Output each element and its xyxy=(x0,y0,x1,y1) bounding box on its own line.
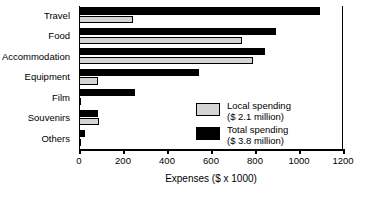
bar-total-spending xyxy=(79,28,276,35)
bar-group xyxy=(79,6,343,26)
bar-local-spending xyxy=(79,139,81,146)
x-axis-tick-label: 600 xyxy=(203,155,219,166)
bar-local-spending xyxy=(79,98,81,105)
category-label: Equipment xyxy=(0,67,74,87)
bar-local-spending xyxy=(79,16,133,23)
category-label: Film xyxy=(0,88,74,108)
legend-item-total: Total spending ($ 3.8 million) xyxy=(196,125,324,146)
black-swatch-icon xyxy=(196,127,220,140)
category-label: Souvenirs xyxy=(0,108,74,128)
x-axis-tick-label: 400 xyxy=(159,155,175,166)
bar-total-spending xyxy=(79,130,85,137)
category-axis-labels: TravelFoodAccommodationEquipmentFilmSouv… xyxy=(0,6,74,149)
bar-local-spending xyxy=(79,57,253,64)
x-axis-tick xyxy=(211,149,213,154)
grey-swatch-icon xyxy=(196,103,220,116)
legend-total-line1: Total spending xyxy=(227,124,288,135)
bar-total-spending xyxy=(79,69,199,76)
legend-item-total-label: Total spending ($ 3.8 million) xyxy=(227,125,288,146)
x-axis-tick xyxy=(255,149,257,154)
bar-local-spending xyxy=(79,77,98,84)
x-axis-tick-labels: 020040060080010001200 xyxy=(79,155,343,169)
x-axis-tick-label: 1200 xyxy=(332,155,353,166)
legend-item-local: Local spending ($ 2.1 million) xyxy=(196,101,324,122)
x-axis-title: Expenses ($ x 1000) xyxy=(79,173,343,184)
chart-legend: Local spending ($ 2.1 million) Total spe… xyxy=(196,101,324,149)
category-label: Food xyxy=(0,26,74,46)
x-axis-tick xyxy=(299,149,301,154)
bar-group xyxy=(79,47,343,67)
bar-total-spending xyxy=(79,48,265,55)
legend-item-local-label: Local spending ($ 2.1 million) xyxy=(227,101,291,122)
x-axis-tick xyxy=(167,149,169,154)
legend-local-line1: Local spending xyxy=(227,100,291,111)
legend-total-line2: ($ 3.8 million) xyxy=(227,136,288,147)
x-axis-tick xyxy=(343,149,345,154)
bar-total-spending xyxy=(79,89,135,96)
x-axis-tick-label: 0 xyxy=(76,155,81,166)
x-axis-tick xyxy=(123,149,125,154)
x-axis-tick-label: 1000 xyxy=(288,155,309,166)
x-axis-tick-label: 200 xyxy=(115,155,131,166)
bar-total-spending xyxy=(79,110,98,117)
bar-group xyxy=(79,26,343,46)
bar-local-spending xyxy=(79,118,99,125)
x-axis-tick xyxy=(79,149,81,154)
bar-local-spending xyxy=(79,37,242,44)
expenses-bar-chart: TravelFoodAccommodationEquipmentFilmSouv… xyxy=(0,0,365,198)
category-label: Others xyxy=(0,129,74,149)
bar-group xyxy=(79,67,343,87)
bar-total-spending xyxy=(79,7,320,14)
legend-local-line2: ($ 2.1 million) xyxy=(227,112,291,123)
category-label: Travel xyxy=(0,6,74,26)
category-label: Accommodation xyxy=(0,47,74,67)
x-axis-tick-label: 800 xyxy=(247,155,263,166)
